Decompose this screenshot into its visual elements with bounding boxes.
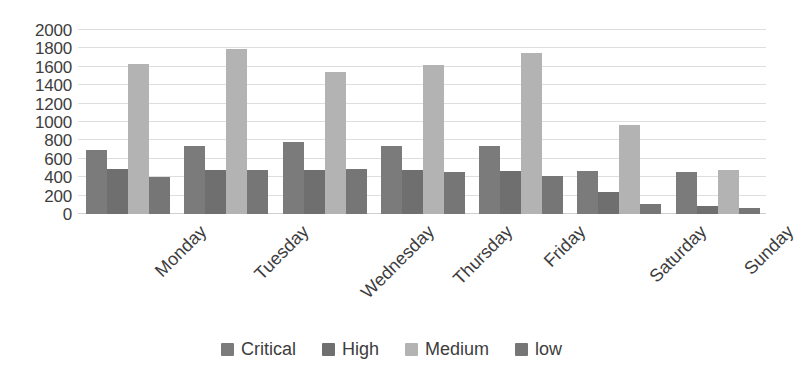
bar [128,64,149,214]
y-axis-tick-label: 1000 [35,114,72,131]
legend-swatch-icon [515,343,528,356]
y-axis: 0200400600800100012001400160018002000 [0,30,72,214]
plot-area [78,30,766,214]
x-axis-tick-label: Saturday [646,222,710,286]
legend-item[interactable]: Critical [221,340,296,358]
bar [247,170,268,214]
legend-swatch-icon [405,343,418,356]
bar-group [176,30,274,214]
legend-swatch-icon [221,343,234,356]
bar [676,172,697,214]
bar-group [275,30,373,214]
bar [226,49,247,214]
bar [184,146,205,214]
bar-groups [78,30,766,214]
y-axis-tick-label: 2000 [35,22,72,39]
bar [402,170,423,214]
bar [149,177,170,214]
y-axis-tick-label: 1400 [35,77,72,94]
x-axis: MondayTuesdayWednesdayThursdayFridaySatu… [78,214,766,314]
bar [107,169,128,214]
bar-group [373,30,471,214]
bar [718,170,739,214]
legend-item[interactable]: low [515,340,562,358]
x-axis-tick-label: Monday [152,222,210,280]
bar [283,142,304,214]
bar-group [668,30,766,214]
bar [598,192,619,214]
legend-label: Critical [241,340,296,358]
legend-label: Medium [425,340,489,358]
bar [479,146,500,214]
bar [205,170,226,214]
legend: CriticalHighMediumlow [0,340,783,358]
x-axis-tick-label: Sunday [741,222,797,278]
legend-label: low [535,340,562,358]
bar [542,176,563,214]
bar [444,172,465,214]
bar [346,169,367,214]
legend-item[interactable]: Medium [405,340,489,358]
x-axis-tick-label: Friday [541,222,589,270]
y-axis-tick-label: 400 [44,169,72,186]
x-axis-tick-label: Tuesday [251,222,312,283]
y-axis-tick-label: 1600 [35,58,72,75]
bar [381,146,402,214]
y-axis-tick-label: 200 [44,187,72,204]
bar [697,206,718,214]
bar [500,171,521,214]
y-axis-tick-label: 1800 [35,40,72,57]
bar-group [569,30,667,214]
legend-item[interactable]: High [322,340,379,358]
x-axis-tick-label: Thursday [450,222,516,288]
y-axis-tick-label: 1200 [35,95,72,112]
bar [640,204,661,214]
y-axis-tick-label: 600 [44,150,72,167]
y-axis-tick-label: 0 [63,206,72,223]
legend-label: High [342,340,379,358]
x-axis-tick-label: Wednesday [357,222,437,302]
bar [325,72,346,214]
bar [423,65,444,214]
bar [577,171,598,214]
bar [619,125,640,214]
bar [86,150,107,214]
bar-group [78,30,176,214]
y-axis-tick-label: 800 [44,132,72,149]
legend-swatch-icon [322,343,335,356]
bar [521,53,542,214]
bar [304,170,325,214]
bar-group [471,30,569,214]
